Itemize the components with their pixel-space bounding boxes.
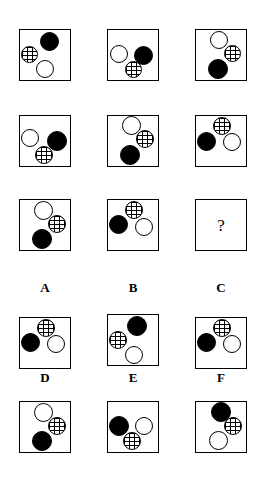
matrix-cell-3-2	[107, 199, 159, 251]
cross-hatched-circle	[37, 319, 55, 337]
option-label-d: D	[16, 371, 74, 384]
cross-hatched-circle	[48, 215, 66, 233]
matrix-cell-2-3	[195, 115, 247, 167]
question-mark: ?	[196, 200, 246, 250]
solid-black-circle	[197, 333, 216, 352]
option-label-e: E	[104, 371, 162, 384]
outlined-white-circle	[47, 335, 65, 353]
solid-black-circle	[32, 229, 52, 249]
option-b[interactable]	[107, 314, 159, 366]
outlined-white-circle	[210, 31, 228, 49]
outlined-white-circle	[223, 133, 241, 151]
solid-black-circle	[197, 132, 216, 151]
matrix-cell-2-2	[107, 115, 159, 167]
outlined-white-circle	[36, 60, 54, 78]
puzzle-canvas: ?ABCDEF	[0, 0, 266, 482]
solid-black-circle	[120, 145, 140, 165]
solid-black-circle	[21, 333, 40, 352]
solid-black-circle	[109, 215, 128, 234]
cross-hatched-circle	[213, 319, 231, 337]
solid-black-circle	[32, 431, 52, 451]
option-label-a: A	[16, 281, 74, 294]
outlined-white-circle	[110, 45, 128, 63]
matrix-cell-1-3	[195, 29, 247, 81]
cross-hatched-circle	[123, 432, 141, 450]
cross-hatched-circle	[35, 146, 53, 164]
matrix-cell-3-3: ?	[195, 199, 247, 251]
outlined-white-circle	[135, 417, 153, 435]
option-d[interactable]	[19, 401, 71, 453]
outlined-white-circle	[223, 335, 241, 353]
option-label-c: C	[192, 281, 250, 294]
cross-hatched-circle	[213, 117, 231, 135]
matrix-cell-1-2	[107, 29, 159, 81]
option-f[interactable]	[195, 401, 247, 453]
cross-hatched-circle	[224, 417, 242, 435]
matrix-cell-1-1	[19, 29, 71, 81]
outlined-white-circle	[135, 218, 153, 236]
outlined-white-circle	[125, 346, 143, 364]
option-c[interactable]	[195, 317, 247, 369]
option-label-f: F	[192, 371, 250, 384]
option-e[interactable]	[107, 401, 159, 453]
solid-black-circle	[127, 316, 147, 336]
cross-hatched-circle	[136, 130, 154, 148]
matrix-cell-3-1	[19, 199, 71, 251]
solid-black-circle	[40, 32, 59, 51]
solid-black-circle	[208, 59, 228, 79]
cross-hatched-circle	[125, 61, 142, 78]
option-a[interactable]	[19, 317, 71, 369]
outlined-white-circle	[21, 129, 39, 147]
cross-hatched-circle	[48, 417, 66, 435]
matrix-cell-2-1	[19, 115, 71, 167]
cross-hatched-circle	[125, 201, 143, 219]
cross-hatched-circle	[224, 45, 241, 62]
cross-hatched-circle	[21, 46, 38, 63]
option-label-b: B	[104, 281, 162, 294]
cross-hatched-circle	[109, 331, 127, 349]
outlined-white-circle	[209, 431, 228, 450]
